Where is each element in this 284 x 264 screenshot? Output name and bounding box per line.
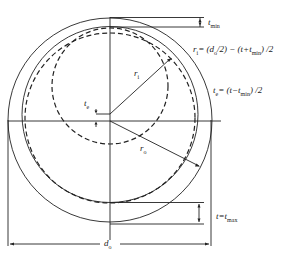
label-te: te [84,99,89,110]
label-ri-formula: ri= (do/2) − (t+tmin) /2 [193,45,273,56]
label-t-max: t=tmax [216,212,237,223]
ro-radius-line [110,121,199,166]
label-ri: ri [134,69,139,80]
ri-radius-line [110,59,170,114]
label-do: do [104,239,112,250]
label-t-min: tmin [208,18,220,29]
label-te-formula: te= (t−tmin) /2 [213,86,262,97]
label-ro: ro [140,144,147,155]
pipe-cross-section-diagram [0,0,284,264]
